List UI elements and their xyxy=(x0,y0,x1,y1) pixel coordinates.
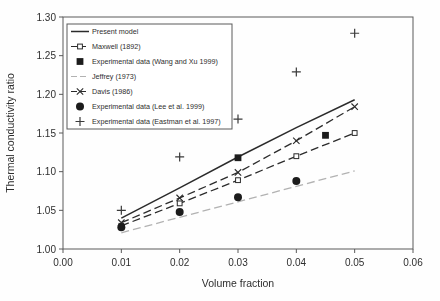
y-tick-label: 1.20 xyxy=(37,89,57,100)
y-tick-label: 1.05 xyxy=(37,205,57,216)
x-tick-label: 0.02 xyxy=(170,257,190,268)
davis-1986-point xyxy=(176,195,182,201)
legend-label-maxwell-1892: Maxwell (1892) xyxy=(92,42,141,51)
experimental-data-eastman-et-al-1997-point xyxy=(175,152,184,161)
davis-1986-point xyxy=(293,138,299,144)
y-tick-label: 1.10 xyxy=(37,166,57,177)
maxwell-1892-point xyxy=(236,178,241,183)
experimental-data-eastman-et-al-1997-point xyxy=(234,115,243,124)
davis-1986-point xyxy=(351,104,357,110)
figure: 0.000.010.020.030.040.050.061.001.051.10… xyxy=(0,0,440,301)
y-tick-label: 1.15 xyxy=(37,128,57,139)
x-tick-label: 0.04 xyxy=(287,257,307,268)
y-tick-label: 1.25 xyxy=(37,50,57,61)
thermal-conductivity-chart: 0.000.010.020.030.040.050.061.001.051.10… xyxy=(0,0,440,301)
legend-label-experimental-data-eastman-et-al-1997: Experimental data (Eastman et al. 1997) xyxy=(92,117,221,126)
maxwell-1892-point xyxy=(294,154,299,159)
x-tick-label: 0.06 xyxy=(403,257,423,268)
x-tick-label: 0.03 xyxy=(228,257,248,268)
x-tick-label: 0.00 xyxy=(53,257,73,268)
legend-label-present-model: Present model xyxy=(92,27,139,36)
legend-marker-experimental-data-wang-and-xu-1999 xyxy=(77,58,84,65)
experimental-data-lee-et-al-1999-point xyxy=(117,223,125,231)
legend-label-davis-1986: Davis (1986) xyxy=(92,87,133,96)
legend-label-experimental-data-wang-and-xu-1999: Experimental data (Wang and Xu 1999) xyxy=(92,57,218,66)
legend-marker-experimental-data-lee-et-al-1999 xyxy=(76,103,84,111)
experimental-data-wang-and-xu-1999-point xyxy=(322,132,329,139)
experimental-data-lee-et-al-1999-point xyxy=(292,177,300,185)
experimental-data-eastman-et-al-1997-point xyxy=(292,67,301,76)
y-tick-label: 1.00 xyxy=(37,244,57,255)
experimental-data-lee-et-al-1999-point xyxy=(234,193,242,201)
experimental-data-wang-and-xu-1999-point xyxy=(235,154,242,161)
y-axis-label: Thermal conductivity ratio xyxy=(4,73,16,193)
experimental-data-lee-et-al-1999-point xyxy=(176,208,184,216)
legend-label-experimental-data-lee-et-al-1999: Experimental data (Lee et al. 1999) xyxy=(92,102,204,111)
x-tick-label: 0.01 xyxy=(112,257,132,268)
maxwell-1892-point xyxy=(352,131,357,136)
x-tick-label: 0.05 xyxy=(345,257,365,268)
experimental-data-eastman-et-al-1997-point xyxy=(117,206,126,215)
x-axis-label: Volume fraction xyxy=(202,277,275,289)
legend-marker-maxwell-1892 xyxy=(78,44,83,49)
experimental-data-eastman-et-al-1997-point xyxy=(350,29,359,38)
maxwell-1892-point xyxy=(177,201,182,206)
legend-label-jeffrey-1973: Jeffrey (1973) xyxy=(92,72,136,81)
davis-1986-point xyxy=(235,169,241,175)
y-tick-label: 1.30 xyxy=(37,12,57,23)
